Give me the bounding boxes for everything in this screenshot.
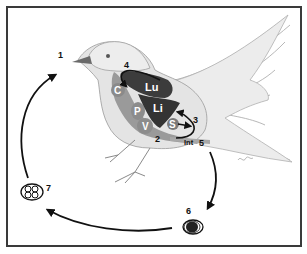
label-spleen: S — [169, 119, 176, 130]
stage-1: 1 — [58, 50, 63, 60]
label-proventriculus: P — [134, 106, 141, 117]
bird-illustration — [72, 15, 292, 183]
stage-5: 5 — [199, 138, 204, 148]
label-crop: C — [114, 85, 121, 96]
label-intestine: Int — [184, 138, 194, 147]
bird-eye — [106, 54, 110, 58]
label-ventriculus: V — [142, 121, 149, 132]
stage-3: 3 — [193, 115, 198, 125]
arrow-7-to-1 — [21, 75, 55, 178]
life-cycle-diagram: Lu Li C P V S Int 1 2 3 4 5 6 7 — [0, 0, 307, 254]
oocyst-stage-7 — [21, 184, 43, 200]
stage-2: 2 — [155, 134, 160, 144]
stage-4: 4 — [124, 60, 129, 70]
stage-7: 7 — [46, 183, 51, 193]
oocyst-stage-6 — [183, 220, 203, 234]
label-liver: Li — [153, 102, 163, 114]
arrow-6-to-7 — [48, 210, 172, 231]
stage-6: 6 — [186, 206, 191, 216]
artist-signature — [238, 157, 253, 160]
label-lungs: Lu — [145, 81, 158, 93]
arrow-5-to-6 — [208, 152, 216, 208]
bird-head — [88, 42, 150, 72]
